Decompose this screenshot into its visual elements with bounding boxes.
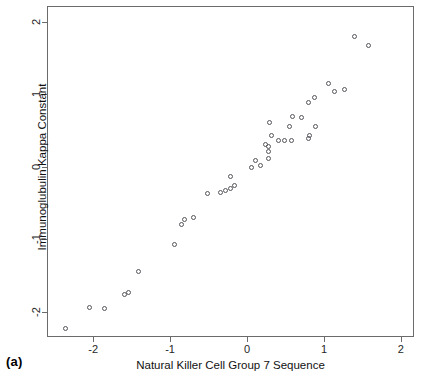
data-point: [172, 242, 177, 247]
data-point: [306, 100, 311, 105]
x-tick-mark: [324, 337, 325, 342]
data-point: [282, 138, 287, 143]
plot-area: [47, 6, 414, 337]
y-axis-label: Immunoglubulin Kappa Constant: [35, 57, 49, 277]
x-tick-label: 1: [321, 343, 327, 355]
panel-label: (a): [6, 354, 23, 369]
data-point: [102, 306, 107, 311]
data-point: [232, 183, 237, 188]
data-point: [136, 269, 141, 274]
data-point: [289, 138, 294, 143]
data-point: [249, 165, 254, 170]
data-point: [313, 124, 318, 129]
y-tick-label: -2: [30, 306, 42, 318]
y-tick-mark: [42, 312, 47, 313]
x-tick-label: 0: [244, 343, 250, 355]
data-point: [352, 34, 357, 39]
x-tick-label: 2: [398, 343, 404, 355]
data-point: [290, 114, 295, 119]
y-tick-mark: [42, 22, 47, 23]
x-tick-mark: [247, 337, 248, 342]
data-point: [342, 87, 347, 92]
x-tick-label: -1: [165, 343, 175, 355]
data-point: [287, 124, 292, 129]
data-point: [276, 138, 281, 143]
data-point: [182, 217, 187, 222]
data-point: [191, 215, 196, 220]
x-tick-mark: [93, 337, 94, 342]
scatter-plot-figure: -2-1012 -2-1012 Natural Killer Cell Grou…: [0, 0, 423, 380]
data-point: [312, 95, 317, 100]
data-point: [228, 174, 233, 179]
data-point: [258, 163, 263, 168]
x-axis-label: Natural Killer Cell Group 7 Sequence: [47, 358, 414, 372]
data-point: [218, 190, 223, 195]
data-point: [205, 191, 210, 196]
data-point: [366, 43, 371, 48]
data-point: [253, 158, 258, 163]
data-point: [326, 81, 331, 86]
x-tick-label: -2: [88, 343, 98, 355]
data-point: [269, 133, 274, 138]
data-point: [126, 290, 131, 295]
data-point: [63, 326, 68, 331]
data-point: [266, 156, 271, 161]
data-point: [332, 89, 337, 94]
data-point: [179, 222, 184, 227]
data-point: [267, 120, 272, 125]
y-tick-label: 2: [30, 16, 42, 28]
data-point: [87, 305, 92, 310]
data-point: [307, 133, 312, 138]
x-tick-mark: [401, 337, 402, 342]
x-tick-mark: [170, 337, 171, 342]
data-point: [299, 115, 304, 120]
data-point: [266, 149, 271, 154]
data-points-layer: [48, 7, 413, 336]
